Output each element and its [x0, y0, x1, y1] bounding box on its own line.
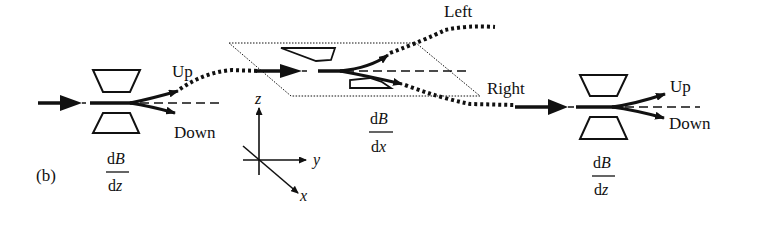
beam-arrowhead-icon: [548, 99, 568, 115]
stage2-right-label: Right: [487, 79, 525, 98]
svg-text:dz: dz: [108, 177, 123, 194]
stage3-down-label: Down: [669, 114, 711, 133]
magnet-pole-top: [580, 75, 627, 96]
stage1-gradient-label: dB dz: [106, 150, 129, 194]
beam-down: [612, 107, 664, 118]
svg-text:dB: dB: [370, 110, 388, 127]
stage2-gradient-label: dB dx: [369, 110, 393, 155]
beam-arrowhead-icon: [60, 95, 82, 111]
svg-text:dB: dB: [593, 154, 611, 171]
beam-up: [130, 91, 178, 103]
beam-left: [340, 55, 388, 71]
panel-label: (b): [36, 166, 56, 185]
svg-text:dB: dB: [107, 150, 125, 167]
svg-text:dx: dx: [371, 138, 386, 155]
z-axis-label: z: [254, 90, 262, 107]
beam-down: [130, 103, 175, 113]
y-axis-label: y: [311, 151, 321, 169]
magnet-pole-left: [281, 48, 335, 61]
x-axis-arrow-icon: [243, 146, 298, 193]
stage2-magnet: [229, 43, 480, 96]
magnet-pole-top: [93, 70, 140, 92]
stage1-up-label: Up: [172, 62, 193, 81]
stage2-left-label: Left: [444, 2, 473, 21]
stage3-up-label: Up: [670, 77, 691, 96]
magnet-pole-bottom: [580, 117, 627, 139]
stage3-gradient-label: dB dz: [592, 154, 615, 198]
magnet-pole-bottom: [93, 113, 139, 133]
x-axis-label: x: [299, 187, 307, 204]
beam-path-left: [390, 26, 495, 53]
svg-text:dz: dz: [594, 181, 609, 198]
beam-arrowhead-icon: [280, 64, 302, 78]
beam-up: [612, 94, 665, 107]
stage1-down-label: Down: [174, 123, 216, 142]
coordinate-axes: z y x: [243, 90, 321, 204]
stern-gerlach-diagram: Up Down (b) dB dz Left Right dB dx: [0, 0, 758, 226]
